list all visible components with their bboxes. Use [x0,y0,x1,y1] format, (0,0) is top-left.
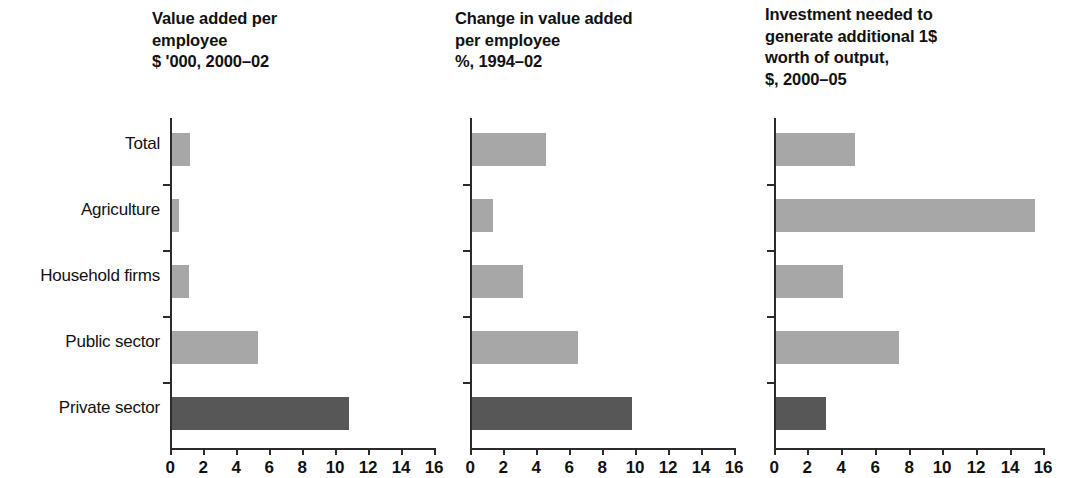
bar-panel-2-private-sector [472,397,632,430]
panel-1-y-tick-2 [163,250,170,252]
panel-2-title: Change in value added per employee %, 19… [455,8,755,73]
panel-2-plot-area: 0 2 4 6 8 10 12 14 16 [470,118,736,450]
panel-1-x-tick-4 [236,448,238,455]
panel-1-x-label-4: 4 [221,458,251,478]
panel-1-y-tick-3 [163,316,170,318]
panel-1-x-label-0: 0 [155,458,185,478]
panel-3-title: Investment needed to generate additional… [765,4,1065,90]
panel-3-x-tick-4 [841,448,843,455]
panel-1-x-label-8: 8 [287,458,317,478]
panel-1-x-label-16: 16 [419,458,449,478]
category-axis-labels: Total Agriculture Household firms Public… [0,0,160,478]
bar-panel-1-public-sector [172,331,258,364]
panel-1-x-tick-2 [203,448,205,455]
panel-3-x-tick-14 [1010,448,1012,455]
panel-1-x-label-6: 6 [254,458,284,478]
panel-1-title: Value added per employee $ '000, 2000–02 [152,8,452,73]
panel-2-x-tick-14 [701,448,703,455]
bar-panel-2-household-firms [472,265,523,298]
panel-3-x-label-2: 2 [792,458,822,478]
category-label-agriculture: Agriculture [81,200,160,220]
bar-panel-2-total [472,133,546,166]
figure-panel-chart: Total Agriculture Household firms Public… [0,0,1070,478]
panel-2-x-label-12: 12 [653,458,683,478]
category-label-private-sector: Private sector [59,398,160,418]
panel-3-x-label-10: 10 [927,458,957,478]
panel-2-y-tick-1 [463,184,470,186]
panel-2-x-tick-16 [734,448,736,455]
panel-2-x-label-16: 16 [719,458,749,478]
panel-3-x-tick-8 [909,448,911,455]
panel-3-y-tick-4 [767,382,774,384]
bar-panel-1-private-sector [172,397,349,430]
panel-3-x-tick-16 [1043,448,1045,455]
panel-3-x-label-14: 14 [995,458,1025,478]
panel-3-y-tick-1 [767,184,774,186]
panel-3-x-label-12: 12 [961,458,991,478]
panel-2-y-tick-2 [463,250,470,252]
category-label-household-firms: Household firms [40,266,160,286]
panel-3-x-tick-6 [875,448,877,455]
panel-3-x-tick-10 [942,448,944,455]
panel-3-x-tick-12 [976,448,978,455]
panel-3-x-tick-2 [807,448,809,455]
panel-2-y-tick-3 [463,316,470,318]
panel-2-x-tick-6 [569,448,571,455]
panel-1-x-tick-16 [434,448,436,455]
panel-1-y-tick-1 [163,184,170,186]
panel-1-x-label-12: 12 [353,458,383,478]
panel-3-x-label-8: 8 [894,458,924,478]
panel-3-y-tick-3 [767,316,774,318]
panel-2-x-label-0: 0 [455,458,485,478]
panel-1-x-label-10: 10 [320,458,350,478]
panel-1-x-label-14: 14 [386,458,416,478]
bar-panel-1-agriculture [172,199,179,232]
panel-3-x-label-4: 4 [826,458,856,478]
panel-2-x-label-6: 6 [554,458,584,478]
panel-3-x-label-16: 16 [1028,458,1058,478]
bar-panel-1-total [172,133,190,166]
panel-2-x-tick-8 [602,448,604,455]
bar-panel-3-household-firms [776,265,843,298]
bar-panel-1-household-firms [172,265,189,298]
panel-3-x-tick-0 [774,448,776,455]
panel-2-x-tick-10 [635,448,637,455]
panel-2-x-tick-12 [668,448,670,455]
bar-panel-2-agriculture [472,199,493,232]
bar-panel-3-public-sector [776,331,899,364]
panel-2-x-tick-0 [470,448,472,455]
panel-1-x-tick-6 [269,448,271,455]
panel-1-x-tick-14 [401,448,403,455]
panel-2-x-tick-4 [536,448,538,455]
panel-1-x-tick-12 [368,448,370,455]
panel-2-x-label-4: 4 [521,458,551,478]
panel-2-x-label-10: 10 [620,458,650,478]
panel-2-x-label-2: 2 [488,458,518,478]
bar-panel-3-private-sector [776,397,826,430]
panel-1-y-tick-4 [163,382,170,384]
category-label-public-sector: Public sector [65,332,160,352]
panel-2-y-tick-4 [463,382,470,384]
bar-panel-3-total [776,133,855,166]
panel-1-plot-area: 0 2 4 6 8 10 12 14 16 [170,118,436,450]
panel-3-plot-area: 0 2 4 6 8 10 12 14 16 [774,118,1044,450]
panel-2-x-tick-2 [503,448,505,455]
panel-3-x-label-0: 0 [759,458,789,478]
panel-2-x-label-8: 8 [587,458,617,478]
category-label-total: Total [125,134,160,154]
panel-1-x-tick-8 [302,448,304,455]
panel-1-x-tick-0 [170,448,172,455]
panel-1-x-label-2: 2 [188,458,218,478]
panel-2-x-label-14: 14 [686,458,716,478]
panel-3-x-label-6: 6 [860,458,890,478]
bar-panel-3-agriculture [776,199,1035,232]
panel-1-x-tick-10 [335,448,337,455]
panel-3-y-tick-2 [767,250,774,252]
bar-panel-2-public-sector [472,331,578,364]
